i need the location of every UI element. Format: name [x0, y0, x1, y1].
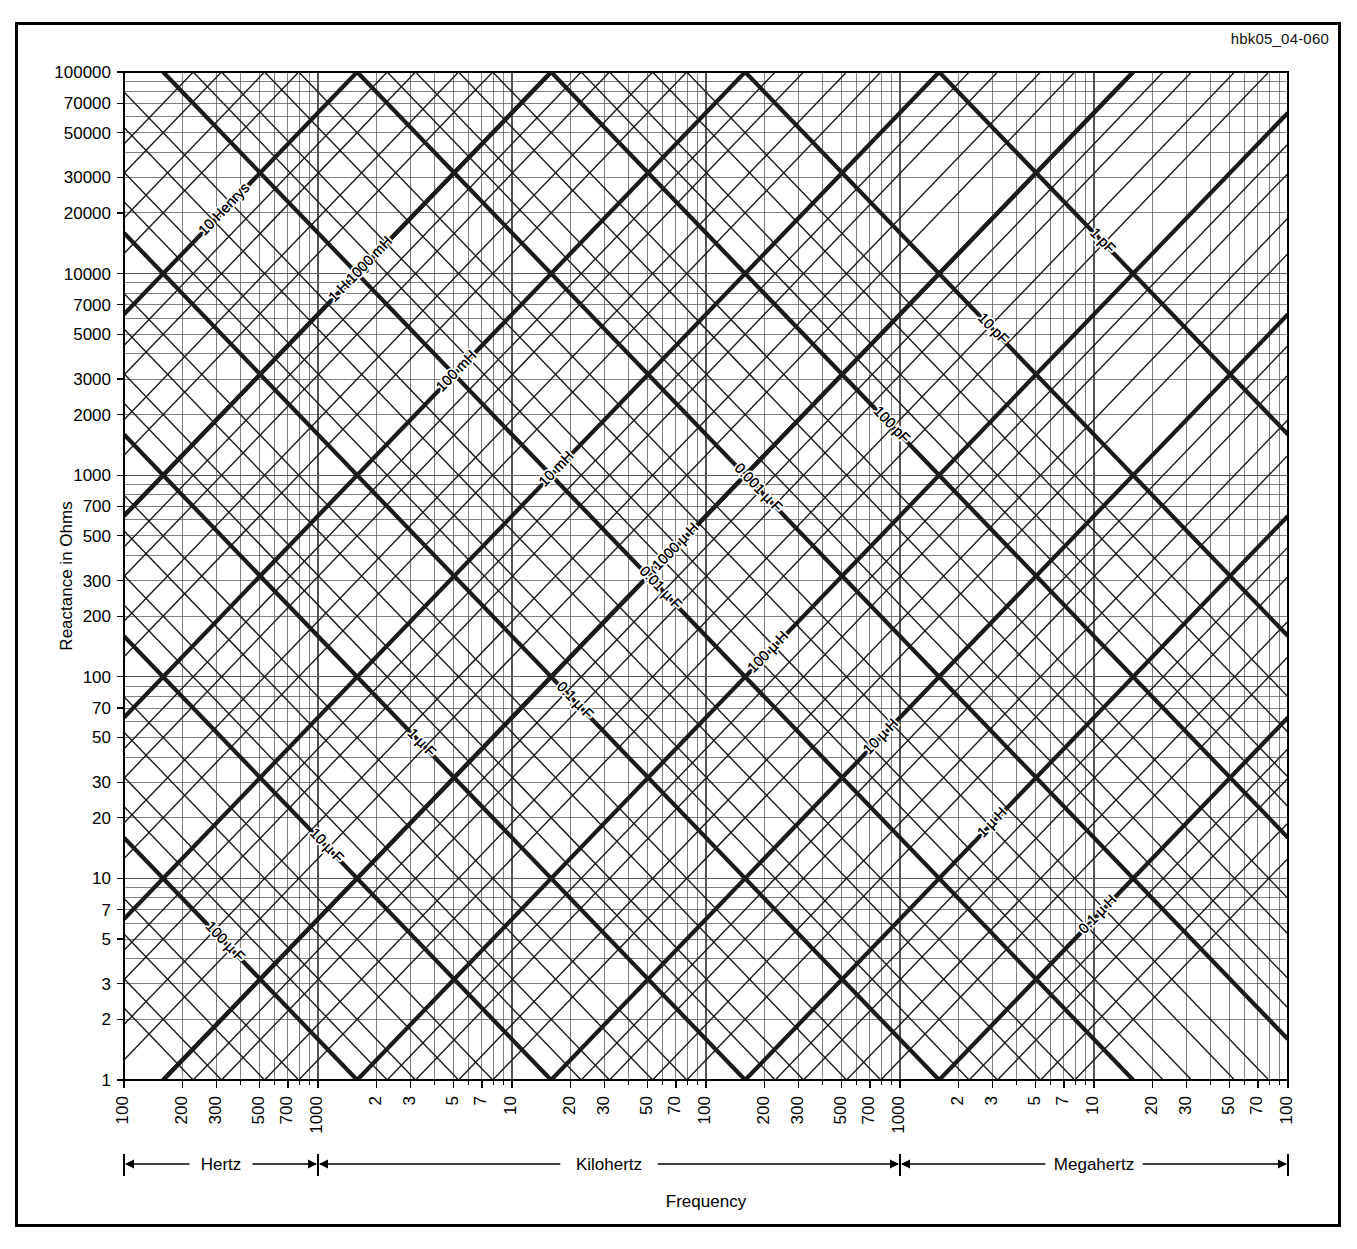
inductance-line-minor	[124, 72, 610, 577]
x-tick-label: 100	[113, 1096, 132, 1124]
label-1000-h: 1000 µ H1000 µ H	[649, 519, 702, 573]
inductance-line-minor	[124, 72, 687, 657]
capacitance-line-100-pf	[551, 72, 1288, 838]
capacitance-line-minor	[493, 72, 1288, 898]
svg-text:70: 70	[665, 1096, 684, 1115]
band-arrow-right	[1278, 1160, 1287, 1169]
svg-text:30: 30	[1176, 1096, 1195, 1115]
svg-text:10: 10	[1083, 1096, 1102, 1115]
inductance-line-minor	[124, 72, 998, 980]
y-tick-label: 30000	[64, 168, 111, 187]
x-tick-label: 200	[172, 1096, 191, 1124]
svg-text:10 Henrys: 10 Henrys	[195, 180, 252, 239]
svg-text:1000: 1000	[307, 1096, 326, 1134]
label-10-henrys: 10 Henrys10 Henrys	[195, 180, 252, 239]
inductance-line-minor	[653, 420, 1288, 1080]
capacitance-line-minor	[124, 806, 387, 1080]
x-tick-label: 7	[471, 1096, 490, 1105]
label-100-f: 100 µ F100 µ F	[203, 918, 249, 965]
capacitance-line-minor	[124, 172, 998, 1080]
svg-text:7: 7	[1053, 1096, 1072, 1105]
y-tick-label: 20000	[64, 204, 111, 223]
y-tick-label: 2000	[73, 406, 111, 425]
y-tick-label: 10000	[64, 265, 111, 284]
inductance-line-minor	[1041, 823, 1288, 1080]
reactance-chart: 10 Henrys10 Henrys1 Henry1 Henry1000 mH1…	[0, 0, 1357, 1249]
x-tick-label: 70	[1247, 1096, 1266, 1115]
svg-text:1000 µ H: 1000 µ H	[649, 519, 702, 573]
svg-text:700: 700	[859, 1096, 878, 1124]
y-tick-label: 1	[102, 1071, 111, 1090]
inductance-line-minor	[124, 72, 775, 749]
inductance-line-minor	[687, 455, 1288, 1080]
inductance-line-10-mh	[124, 72, 939, 919]
inductance-line-minor	[124, 72, 459, 420]
x-tick-label: 5	[443, 1096, 462, 1105]
x-tick-label: 500	[249, 1096, 268, 1124]
capacitance-line-minor	[124, 1008, 193, 1080]
x-tick-label: 2	[366, 1096, 385, 1105]
band-arrow-right	[308, 1160, 317, 1169]
svg-text:500: 500	[831, 1096, 850, 1124]
x-tick-label: 300	[788, 1096, 807, 1124]
svg-text:500: 500	[249, 1096, 268, 1124]
svg-text:0.001 µ F: 0.001 µ F	[732, 460, 786, 516]
inductance-line-minor	[124, 72, 653, 621]
x-tick-label: 50	[1219, 1096, 1238, 1115]
x-tick-label: 100	[1277, 1096, 1296, 1124]
svg-text:2: 2	[948, 1096, 967, 1105]
svg-text:50: 50	[637, 1096, 656, 1115]
x-tick-label: 7	[1053, 1096, 1072, 1105]
svg-text:0.1 µ F: 0.1 µ F	[554, 678, 597, 722]
inductance-line-minor	[804, 577, 1288, 1080]
inductance-line-minor	[493, 254, 1288, 1080]
svg-text:1000: 1000	[889, 1096, 908, 1134]
y-tick-label: 10	[92, 869, 111, 888]
x-tick-label: 10	[1083, 1096, 1102, 1115]
svg-text:70: 70	[1247, 1096, 1266, 1115]
y-tick-label: 100000	[54, 63, 111, 82]
y-tick-label: 2	[102, 1010, 111, 1029]
svg-text:200: 200	[172, 1096, 191, 1124]
band-arrow-left	[125, 1160, 134, 1169]
y-tick-label: 100	[83, 668, 111, 687]
capacitance-line-minor	[124, 575, 610, 1080]
svg-text:7: 7	[471, 1096, 490, 1105]
y-tick-label: 30	[92, 773, 111, 792]
svg-text:300: 300	[788, 1096, 807, 1124]
x-tick-label: 50	[637, 1096, 656, 1115]
capacitance-line-minor	[124, 777, 416, 1080]
y-tick-label: 7000	[73, 296, 111, 315]
capacitance-line-minor	[124, 128, 1041, 1080]
capacitance-line-minor	[387, 72, 1288, 1008]
capacitance-line-minor	[124, 329, 847, 1080]
y-tick-label: 70000	[64, 94, 111, 113]
x-tick-label: 100	[695, 1096, 714, 1124]
x-tick-label: 300	[206, 1096, 225, 1124]
capacitance-line-1-pf	[939, 72, 1288, 435]
capacitance-line-minor	[124, 202, 969, 1080]
inductance-line-minor	[998, 778, 1288, 1080]
band-arrow-left	[901, 1160, 910, 1169]
capacitance-line-minor	[124, 531, 653, 1080]
svg-text:2: 2	[366, 1096, 385, 1105]
capacitance-line-minor	[124, 495, 687, 1080]
x-tick-label: 30	[594, 1096, 613, 1115]
band-label: Megahertz	[1054, 1155, 1134, 1174]
inductance-line-minor	[124, 72, 493, 455]
inductance-line-minor	[124, 72, 969, 950]
inductance-line-minor	[124, 72, 222, 173]
inductance-line-minor	[124, 72, 847, 823]
capacitance-line-minor	[124, 697, 493, 1080]
band-arrow-left	[319, 1160, 328, 1169]
svg-text:Reactance in Ohms: Reactance in Ohms	[57, 501, 76, 650]
svg-text:300: 300	[206, 1096, 225, 1124]
y-tick-label: 3	[102, 975, 111, 994]
y-tick-label: 50000	[64, 124, 111, 143]
svg-text:100: 100	[695, 1096, 714, 1124]
x-tick-label: 10	[501, 1096, 520, 1115]
x-tick-label: 2	[948, 1096, 967, 1105]
x-tick-label: 500	[831, 1096, 850, 1124]
capacitance-line-minor	[653, 72, 1288, 732]
x-tick-label: 1000	[889, 1096, 908, 1134]
